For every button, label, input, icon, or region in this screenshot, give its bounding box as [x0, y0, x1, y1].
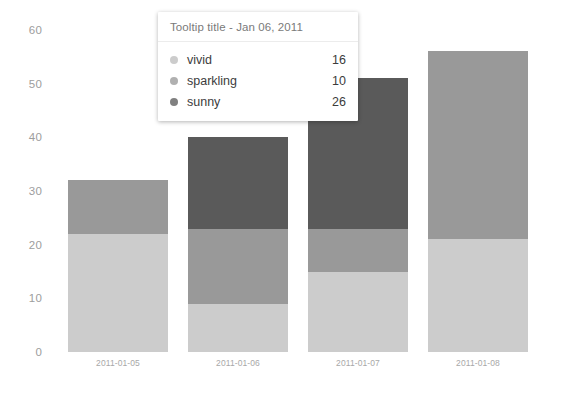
bar-segment-sunny[interactable] — [188, 137, 288, 228]
x-axis-tick-label: 2011-01-07 — [336, 358, 380, 368]
bar-segment-sparkling[interactable] — [428, 51, 528, 239]
y-axis-tick-label: 50 — [29, 78, 42, 90]
bar-segment-sparkling[interactable] — [308, 229, 408, 272]
tooltip-body: vivid 16 sparkling 10 sunny 26 — [158, 42, 358, 121]
y-axis-tick-label: 40 — [29, 131, 42, 143]
bar-segment-vivid[interactable] — [428, 239, 528, 352]
stacked-bar-chart: 60 50 40 30 20 10 0 201 — [0, 0, 563, 395]
tooltip-series-label: vivid — [187, 53, 332, 67]
series-color-dot-icon — [170, 56, 178, 64]
tooltip-row: sunny 26 — [170, 91, 346, 112]
y-axis: 60 50 40 30 20 10 0 — [0, 0, 52, 395]
y-axis-tick-label: 10 — [29, 292, 42, 304]
chart-tooltip: Tooltip title - Jan 06, 2011 vivid 16 sp… — [158, 12, 358, 121]
y-axis-tick-label: 20 — [29, 239, 42, 251]
series-color-dot-icon — [170, 98, 178, 106]
tooltip-series-label: sunny — [187, 95, 332, 109]
bar-segment-vivid[interactable] — [68, 234, 168, 352]
x-axis-tick-label: 2011-01-08 — [456, 358, 500, 368]
bar-segment-vivid[interactable] — [188, 304, 288, 352]
tooltip-series-value: 10 — [332, 74, 346, 88]
tooltip-title: Tooltip title - Jan 06, 2011 — [158, 12, 358, 42]
bar-segment-sparkling[interactable] — [188, 229, 288, 304]
tooltip-row: sparkling 10 — [170, 70, 346, 91]
series-color-dot-icon — [170, 77, 178, 85]
bar-segment-vivid[interactable] — [308, 272, 408, 353]
y-axis-tick-label: 60 — [29, 24, 42, 36]
y-axis-tick-label: 0 — [35, 346, 42, 358]
x-axis-tick-label: 2011-01-06 — [216, 358, 260, 368]
x-axis: 2011-01-05 2011-01-06 2011-01-07 2011-01… — [60, 358, 543, 378]
y-axis-tick-label: 30 — [29, 185, 42, 197]
x-axis-tick-label: 2011-01-05 — [96, 358, 140, 368]
tooltip-row: vivid 16 — [170, 49, 346, 70]
bar-segment-sparkling[interactable] — [68, 180, 168, 234]
tooltip-series-label: sparkling — [187, 74, 332, 88]
tooltip-series-value: 16 — [332, 53, 346, 67]
tooltip-series-value: 26 — [332, 95, 346, 109]
